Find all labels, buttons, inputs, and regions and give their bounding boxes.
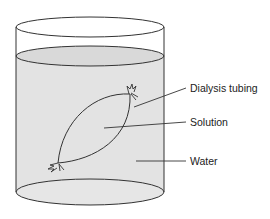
- beaker-rim: [16, 17, 164, 37]
- beaker-bottom: [16, 179, 164, 205]
- label-dialysis-tubing: Dialysis tubing: [190, 82, 258, 94]
- water-surface: [16, 46, 164, 66]
- beaker-diagram: [0, 0, 270, 219]
- label-solution: Solution: [190, 116, 228, 128]
- label-water: Water: [190, 155, 218, 167]
